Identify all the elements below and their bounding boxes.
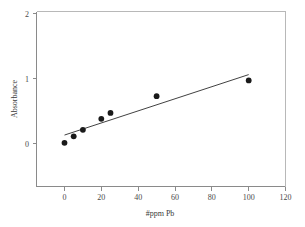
scatter-plot-canvas: 0 20 40 60 80 100 120 0 1 2 #ppm Pb Abso… (0, 0, 305, 227)
regression-line (65, 75, 249, 135)
data-points-group (62, 78, 252, 146)
data-point (154, 93, 160, 99)
data-point (71, 133, 77, 139)
data-point (108, 110, 114, 116)
y-tick-label-1: 1 (25, 75, 29, 84)
plot-frame (37, 12, 286, 187)
chart-figure: 0 20 40 60 80 100 120 0 1 2 #ppm Pb Abso… (0, 0, 305, 227)
data-point (98, 116, 104, 122)
x-tick-label-100: 100 (243, 193, 255, 202)
data-point (246, 78, 252, 84)
y-tick-label-0: 0 (25, 140, 29, 149)
x-tick-label-0: 0 (63, 193, 67, 202)
data-point (62, 140, 68, 146)
x-tick-label-120: 120 (280, 193, 292, 202)
y-axis-ticks: 0 1 2 (25, 10, 37, 149)
x-axis-title: #ppm Pb (146, 209, 175, 218)
x-axis-ticks: 0 20 40 60 80 100 120 (63, 187, 292, 203)
y-axis-title: Absorbance (10, 79, 19, 118)
y-tick-label-2: 2 (25, 10, 29, 19)
x-tick-label-60: 60 (171, 193, 179, 202)
data-point (80, 127, 86, 133)
x-tick-label-40: 40 (134, 193, 142, 202)
x-tick-label-80: 80 (208, 193, 216, 202)
x-tick-label-20: 20 (97, 193, 105, 202)
